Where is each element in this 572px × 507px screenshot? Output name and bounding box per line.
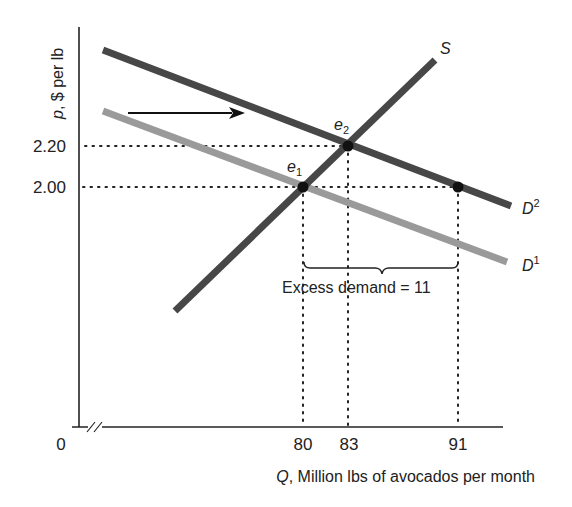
x-tick-origin: 0 bbox=[56, 435, 65, 454]
shift-arrow-icon bbox=[128, 107, 245, 119]
y-tick-200: 2.00 bbox=[33, 178, 66, 197]
y-tick-220: 2.20 bbox=[33, 137, 66, 156]
d2-point-at-200 bbox=[453, 182, 464, 193]
supply-demand-chart: Excess demand = 11 2.20 2.00 0 80 83 91 … bbox=[0, 0, 572, 507]
x-tick-80: 80 bbox=[294, 435, 313, 454]
equilibrium-point-e2 bbox=[343, 141, 354, 152]
x-tick-83: 83 bbox=[340, 435, 359, 454]
axis-break-icon bbox=[87, 420, 102, 434]
y-axis-label: p, $ per lb bbox=[49, 48, 66, 120]
x-tick-91: 91 bbox=[449, 435, 468, 454]
d1-label: D1 bbox=[522, 254, 540, 274]
excess-demand-brace bbox=[304, 262, 458, 274]
d2-label: D2 bbox=[522, 197, 540, 217]
excess-demand-label: Excess demand = 11 bbox=[282, 279, 431, 296]
equilibrium-point-e1 bbox=[298, 182, 309, 193]
supply-label: S bbox=[440, 40, 451, 57]
x-axis-label: Q, Million lbs of avocados per month bbox=[276, 468, 535, 485]
e2-label: e2 bbox=[334, 116, 349, 136]
e1-label: e1 bbox=[287, 158, 302, 178]
